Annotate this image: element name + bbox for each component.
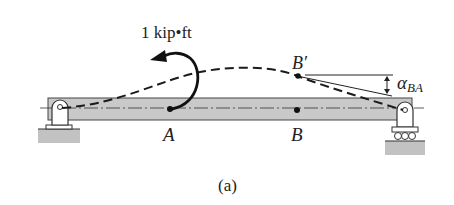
alpha-symbol: α <box>397 72 407 93</box>
ground-right <box>385 141 425 155</box>
alpha-subscript: BA <box>407 80 423 95</box>
moment-label: 1 kip•ft <box>141 23 192 43</box>
angle-alpha-label: αBA <box>397 72 423 96</box>
diagram-canvas: 1 kip•ft B′ αBA A B (a) <box>0 0 454 205</box>
beam <box>48 98 412 120</box>
tangent-line <box>297 76 392 96</box>
ground-left <box>38 129 80 143</box>
alpha-dimension-arrow <box>384 76 390 94</box>
beam-diagram <box>0 0 454 205</box>
moment-arrowhead-icon <box>150 50 167 62</box>
figure-caption: (a) <box>218 176 237 196</box>
point-b-dot <box>294 107 300 113</box>
point-b-prime-dot <box>295 73 301 79</box>
point-b-prime-label: B′ <box>292 53 307 74</box>
point-b-label: B <box>291 124 303 146</box>
point-a-label: A <box>163 124 175 146</box>
